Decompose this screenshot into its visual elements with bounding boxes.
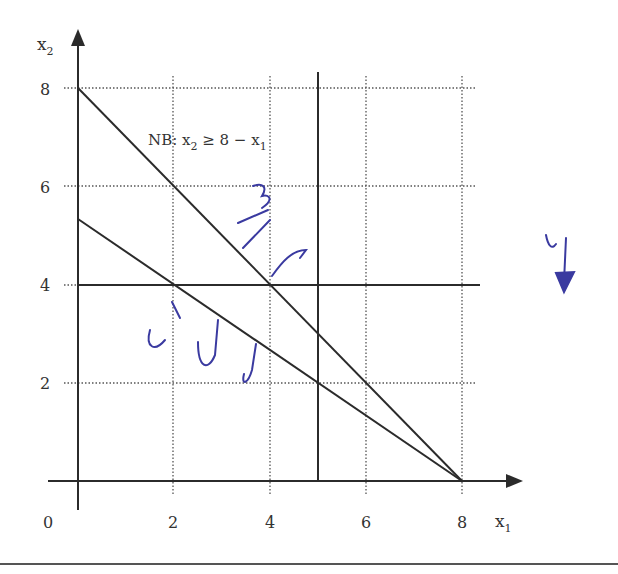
- svg-text:8: 8: [40, 80, 50, 99]
- pen-arrow-mark: [243, 220, 270, 248]
- pen-check-mark: [243, 344, 256, 382]
- y-axis-arrow-icon: [71, 29, 85, 46]
- chart: 8 6 4 2 0 2 4 6 8 x2 x1 NB: x2 ≥ 8 − x1: [0, 0, 618, 574]
- svg-text:4: 4: [40, 276, 50, 295]
- handwritten-marks: [149, 185, 574, 382]
- pen-arrow-mark: [272, 250, 306, 276]
- svg-text:6: 6: [40, 178, 50, 197]
- pen-arrow-mark: [238, 185, 270, 223]
- axes: [48, 44, 508, 510]
- svg-text:2: 2: [168, 513, 178, 532]
- y-axis-label: x2: [37, 34, 54, 58]
- svg-text:2: 2: [40, 374, 50, 393]
- x-axis-label: x1: [495, 511, 512, 535]
- svg-text:4: 4: [265, 513, 275, 532]
- svg-text:0: 0: [43, 513, 53, 532]
- x-axis-arrow-icon: [506, 474, 523, 488]
- pen-check-mark: [198, 320, 218, 365]
- constraint-annotation: NB: x2 ≥ 8 − x1: [148, 131, 267, 153]
- pen-check-mark: [149, 302, 180, 347]
- bottom-rule: [0, 563, 618, 565]
- svg-text:8: 8: [457, 513, 467, 532]
- pen-down-arrow-icon: [556, 272, 574, 292]
- constraint-lines: [78, 72, 480, 481]
- svg-text:6: 6: [361, 513, 371, 532]
